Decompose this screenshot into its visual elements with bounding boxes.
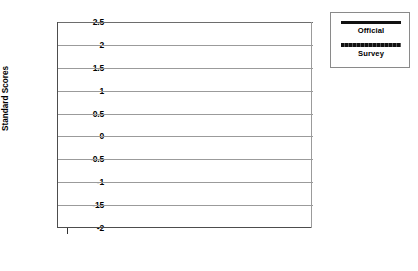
x-axis-tick-major	[67, 228, 68, 234]
legend-swatch-official	[341, 21, 401, 24]
legend-entry-survey: Survey	[339, 43, 403, 58]
legend-label-official: Official	[339, 26, 403, 35]
y-axis-title: Standard Scores	[1, 39, 10, 159]
legend-label-survey: Survey	[339, 49, 403, 58]
plot-area	[57, 22, 312, 228]
chart-screenshot: Standard Scores 2.521.510.50-0.5-1-15-2 …	[0, 0, 418, 271]
legend-swatch-survey	[341, 43, 401, 47]
legend-entry-official: Official	[339, 21, 403, 35]
series-lines	[58, 22, 313, 228]
legend: Official Survey	[330, 12, 410, 68]
